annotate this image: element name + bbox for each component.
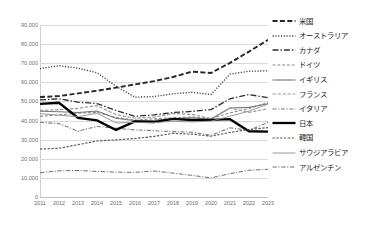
legend-line-swatch-icon [272, 31, 296, 41]
legend-item-label: イタリア [299, 105, 327, 112]
legend-line-swatch-icon [272, 89, 296, 99]
legend-line-swatch-icon [272, 162, 296, 172]
legend-item-label: オーストラリア [299, 32, 348, 39]
legend-item-label: 米国 [299, 18, 313, 25]
y-axis-tick-label: 50,000 [4, 98, 38, 104]
x-axis-tick-label: 2015 [110, 200, 122, 206]
x-axis-tick-label: 2016 [129, 200, 141, 206]
legend-item-label: サウジアラビア [299, 149, 348, 156]
legend-item-label: 日本 [299, 120, 313, 127]
x-axis-tick-label: 2020 [205, 200, 217, 206]
legend-item-label: 韓国 [299, 134, 313, 141]
legend-item[interactable]: オーストラリア [272, 29, 380, 44]
legend-item-label: アルゼンチン [299, 164, 341, 171]
x-axis-tick-label: 2019 [186, 200, 198, 206]
legend-item[interactable]: 韓国 [272, 131, 380, 146]
x-axis-tick-label: 2018 [167, 200, 179, 206]
line-chart: 010,00020,00030,00040,00050,00060,00070,… [0, 0, 381, 226]
x-axis-tick-label: 2021 [224, 200, 236, 206]
legend-line-swatch-icon [272, 60, 296, 70]
y-axis-tick-label: 80,000 [4, 41, 38, 47]
series-line [40, 128, 268, 149]
legend-item-label: ドイツ [299, 61, 320, 68]
legend-item[interactable]: 米国 [272, 14, 380, 29]
legend-item[interactable]: 日本 [272, 116, 380, 131]
x-axis-tick-label: 2023 [262, 200, 274, 206]
y-axis-tick-label: 70,000 [4, 60, 38, 66]
y-axis-tick-label: 10,000 [4, 175, 38, 181]
legend-line-swatch-icon [272, 16, 296, 26]
x-axis-tick-label: 2014 [91, 200, 103, 206]
y-axis-tick-label: 20,000 [4, 156, 38, 162]
legend-item[interactable]: ドイツ [272, 58, 380, 73]
legend-line-swatch-icon [272, 148, 296, 158]
series-line [40, 40, 268, 97]
y-axis-tick-labels: 010,00020,00030,00040,00050,00060,00070,… [0, 25, 38, 197]
y-axis-tick-label: 40,000 [4, 118, 38, 124]
legend-item[interactable]: カナダ [272, 43, 380, 58]
legend-item[interactable]: アルゼンチン [272, 160, 380, 175]
series-lines [40, 25, 268, 197]
x-axis-tick-label: 2022 [243, 200, 255, 206]
x-axis-tick-label: 2012 [53, 200, 65, 206]
x-axis-tick-label: 2011 [34, 200, 46, 206]
legend-line-swatch-icon [272, 118, 296, 128]
series-line [40, 104, 268, 121]
series-line [40, 122, 268, 135]
plot-area [40, 25, 268, 197]
legend-item[interactable]: サウジアラビア [272, 145, 380, 160]
x-axis-tick-label: 2013 [72, 200, 84, 206]
y-axis-tick-label: 0 [4, 194, 38, 200]
legend-item-label: カナダ [299, 47, 320, 54]
legend-item[interactable]: イギリス [272, 72, 380, 87]
chart-legend: 米国オーストラリアカナダドイツイギリスフランスイタリア日本韓国サウジアラビアアル… [272, 14, 380, 175]
legend-line-swatch-icon [272, 133, 296, 143]
y-axis-tick-label: 30,000 [4, 137, 38, 143]
x-axis-tick-label: 2017 [148, 200, 160, 206]
legend-item-label: イギリス [299, 76, 327, 83]
x-axis-tick-labels: 2011201220132014201520162017201820192020… [40, 200, 268, 214]
legend-line-swatch-icon [272, 75, 296, 85]
legend-line-swatch-icon [272, 104, 296, 114]
legend-item[interactable]: フランス [272, 87, 380, 102]
gridline [40, 197, 268, 198]
legend-line-swatch-icon [272, 45, 296, 55]
y-axis-tick-label: 90,000 [4, 22, 38, 28]
legend-item[interactable]: イタリア [272, 102, 380, 117]
series-line [40, 169, 268, 178]
legend-item-label: フランス [299, 91, 327, 98]
y-axis-tick-label: 60,000 [4, 79, 38, 85]
